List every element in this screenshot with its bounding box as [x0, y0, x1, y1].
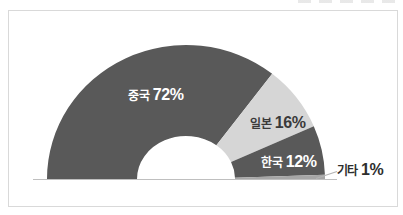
label-japan: 일본16%: [250, 115, 306, 131]
label-other: 기타1%: [337, 162, 384, 178]
label-korea-name: 한국: [261, 156, 282, 170]
chart-image: 중국72% 일본16% 한국12% 기타1%: [0, 0, 403, 215]
label-korea: 한국12%: [261, 154, 317, 170]
label-china-name: 중국: [128, 89, 149, 103]
label-china-value: 72%: [153, 86, 184, 103]
half-donut-chart: [0, 0, 403, 215]
label-other-value: 1%: [361, 161, 384, 178]
label-other-name: 기타: [337, 164, 358, 178]
label-japan-name: 일본: [250, 117, 271, 131]
label-korea-value: 12%: [286, 153, 317, 170]
label-japan-value: 16%: [275, 114, 306, 131]
label-china: 중국72%: [128, 87, 184, 103]
